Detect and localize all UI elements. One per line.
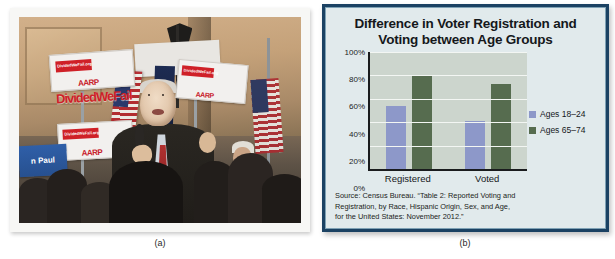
legend-item: Ages 65–74 — [529, 125, 597, 135]
gridline — [370, 52, 527, 53]
chart-title-line-2: Voting between Age Groups — [340, 32, 591, 48]
aarp-logo-text: AARP — [195, 91, 213, 100]
chart-source-note: Source: Census Bureau. “Table 2: Reporte… — [334, 191, 597, 223]
chart-title: Difference in Voter Registration and Vot… — [340, 16, 591, 48]
chart-body: 100%80%60%40%20%0% RegisteredVoted Ages … — [334, 52, 597, 189]
y-axis-tick: 20% — [349, 157, 365, 166]
chart-panel: Difference in Voter Registration and Vot… — [322, 4, 609, 232]
american-flag — [250, 78, 283, 154]
crowd-person — [262, 174, 301, 223]
candidate-sign-text: n Paul — [31, 155, 55, 165]
source-line-3: for the United States: November 2012.” — [335, 212, 597, 223]
aarp-logo-text: AARP — [78, 77, 99, 87]
y-axis-tick: 0% — [353, 184, 365, 193]
bar-group-voted — [455, 52, 521, 170]
legend-swatch — [529, 127, 536, 134]
bar — [386, 106, 406, 170]
caption-a: (a) — [130, 238, 190, 248]
caption-b: (b) — [435, 238, 495, 248]
gridline — [370, 75, 527, 76]
legend-swatch — [529, 111, 536, 118]
legend-label: Ages 65–74 — [540, 125, 585, 135]
protest-sign: DividedWeFail.org AARP — [49, 49, 135, 92]
speaker-eye — [162, 94, 165, 96]
protest-sign: DividedWeFail.org AARP — [175, 59, 248, 104]
source-line-1: Source: Census Bureau. “Table 2: Reporte… — [335, 191, 597, 202]
photo-frame: DividedWeFail.org AARP DividedWeFail.org… — [10, 8, 310, 232]
crowd-person-foreground — [109, 161, 182, 223]
gridline — [370, 146, 527, 147]
bar — [491, 84, 511, 170]
rally-photograph: DividedWeFail.org AARP DividedWeFail.org… — [19, 17, 301, 223]
bar-group-registered — [376, 52, 442, 170]
y-axis-tick: 40% — [349, 129, 365, 138]
speaker-mouth — [152, 109, 165, 115]
gridline — [370, 122, 527, 123]
x-axis-label: Registered — [374, 173, 441, 188]
chart-inner: Difference in Voter Registration and Vot… — [325, 7, 606, 229]
y-axis-tick: 60% — [349, 102, 365, 111]
aarp-logo-text: AARP — [82, 148, 103, 158]
x-axis-label: Voted — [454, 173, 521, 188]
speaker-head — [140, 81, 175, 126]
y-axis-tick: 80% — [349, 75, 365, 84]
y-axis: 100%80%60%40%20%0% — [334, 52, 368, 189]
bar-groups — [370, 52, 527, 170]
x-axis-labels: RegisteredVoted — [368, 171, 527, 188]
crowd-head — [199, 132, 216, 153]
chart-title-line-1: Difference in Voter Registration and — [340, 16, 591, 32]
legend-label: Ages 18–24 — [540, 109, 585, 119]
source-line-2: Registration, by Race, Hispanic Origin, … — [335, 202, 597, 213]
gridline — [370, 99, 527, 100]
y-axis-tick: 100% — [345, 47, 365, 56]
legend-item: Ages 18–24 — [529, 109, 597, 119]
speaker-eye — [148, 94, 151, 96]
plot-area — [368, 52, 527, 172]
photo-panel: DividedWeFail.org AARP DividedWeFail.org… — [10, 8, 310, 232]
figure-container: DividedWeFail.org AARP DividedWeFail.org… — [0, 0, 615, 259]
chart-legend: Ages 18–24Ages 65–74 — [529, 109, 597, 141]
